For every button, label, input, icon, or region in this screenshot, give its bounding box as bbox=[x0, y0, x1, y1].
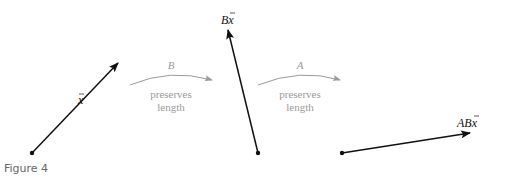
transform-b-name: B bbox=[168, 59, 175, 71]
transform-a-name: A bbox=[296, 59, 304, 71]
figure-caption: Figure 4 bbox=[4, 162, 48, 175]
transform-b: B preserves length bbox=[130, 59, 212, 113]
transform-a-line1: preserves bbox=[279, 88, 321, 100]
origin-point bbox=[340, 151, 344, 155]
transform-b-line2: length bbox=[157, 101, 185, 113]
origin-point bbox=[30, 151, 34, 155]
vector-x: x bbox=[30, 63, 118, 155]
vector-x-label: x bbox=[77, 93, 84, 107]
diagram-canvas: x B preserves length Bx A preserves leng… bbox=[0, 0, 507, 185]
vector-bx-label: Bx bbox=[221, 13, 234, 27]
transform-a: A preserves length bbox=[258, 59, 340, 113]
origin-point bbox=[256, 151, 260, 155]
vector-abx-label: ABx bbox=[456, 116, 478, 130]
vector-abx: ABx bbox=[340, 116, 479, 155]
transform-a-line2: length bbox=[286, 101, 314, 113]
transform-b-line1: preserves bbox=[150, 88, 192, 100]
vector-bx: Bx bbox=[221, 13, 260, 155]
